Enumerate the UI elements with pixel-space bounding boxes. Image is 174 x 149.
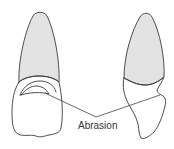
abrasion-label: Abrasion	[78, 120, 117, 131]
left-tooth-crown	[12, 76, 62, 137]
leader-line-right	[96, 95, 160, 117]
left-tooth	[12, 12, 62, 137]
right-tooth-root	[124, 13, 164, 85]
leader-line-left	[45, 93, 96, 117]
right-tooth-crown	[123, 77, 165, 139]
right-tooth	[123, 13, 165, 138]
left-tooth-root	[19, 12, 59, 82]
abrasion-diagram: Abrasion	[0, 0, 174, 149]
